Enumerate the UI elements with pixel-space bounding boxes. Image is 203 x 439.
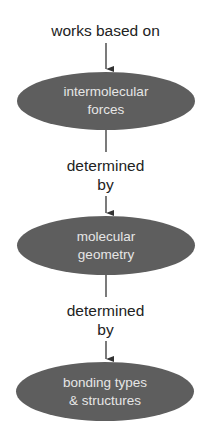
node-1-line1: intermolecular bbox=[64, 83, 149, 101]
edge-2-label-line2: by bbox=[0, 321, 203, 339]
top-label: works based on bbox=[0, 22, 203, 40]
edge-2-label-line1: determined bbox=[0, 302, 203, 320]
node-2-line1: molecular bbox=[77, 228, 136, 246]
edge-1-label-line1: determined bbox=[0, 157, 203, 175]
node-molecular-geometry: molecular geometry bbox=[17, 216, 195, 275]
node-1-line2: forces bbox=[64, 101, 149, 119]
edge-1-label-line2: by bbox=[0, 176, 203, 194]
node-2-line2: geometry bbox=[77, 246, 136, 264]
node-3-line2: & structures bbox=[63, 392, 147, 410]
node-3-line1: bonding types bbox=[63, 374, 147, 392]
node-bonding-types-structures: bonding types & structures bbox=[16, 362, 194, 421]
node-intermolecular-forces: intermolecular forces bbox=[17, 72, 195, 130]
